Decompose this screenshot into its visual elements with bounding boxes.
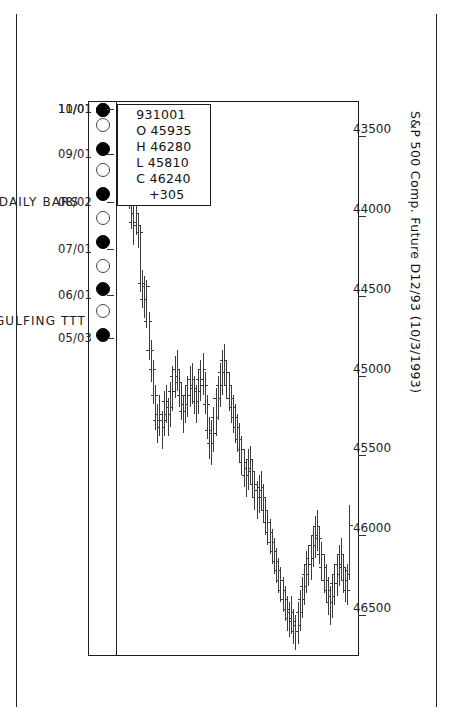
ohlc-close-tick (298, 599, 301, 600)
ohlc-close-tick (319, 567, 322, 568)
ohlc-close-tick (209, 433, 212, 434)
ohlc-close-tick (181, 404, 184, 405)
moon-phase-full-marker (96, 211, 110, 225)
ohlc-close-tick (289, 621, 292, 622)
ohlc-close-tick (159, 420, 162, 421)
ohlc-bar (276, 547, 277, 582)
ohlc-close-tick (170, 375, 173, 376)
moon-phase-new-marker (96, 234, 110, 248)
ohlc-close-tick (287, 611, 290, 612)
ohlc-bar (209, 417, 210, 459)
ohlc-close-tick (334, 563, 337, 564)
ohlc-close-tick (267, 541, 270, 542)
ohlc-close-tick (213, 397, 216, 398)
ohlc-close-tick (177, 394, 180, 395)
ohlc-open-tick (348, 589, 351, 590)
ohlc-close-tick (278, 589, 281, 590)
ohlc-bar (296, 615, 297, 650)
ohlc-close-tick (257, 487, 260, 488)
ohlc-close-tick (293, 624, 296, 625)
ohlc-bar (149, 311, 150, 359)
ohlc-open-tick (153, 369, 156, 370)
ohlc-bar (274, 538, 275, 573)
caption-engulfing-ttt: ENGULFING TTT (0, 313, 86, 327)
price-tick-label: 46500 (353, 601, 391, 615)
ohlc-bar (155, 385, 156, 430)
date-tick (107, 201, 114, 202)
ohlc-close-tick (343, 589, 346, 590)
ohlc-bar (151, 340, 152, 382)
ohlc-bar (248, 448, 249, 490)
ohlc-close-tick (211, 417, 214, 418)
ohlc-close-tick (246, 458, 249, 459)
ohlc-close-tick (339, 567, 342, 568)
ohlc-bar (216, 388, 217, 436)
ohlc-bar (179, 369, 180, 407)
ohlc-bar (224, 343, 225, 385)
ohlc-close-tick (321, 579, 324, 580)
page-rule-left (16, 14, 17, 707)
ohlc-close-tick (136, 231, 139, 232)
moon-phase-full-marker (96, 258, 110, 272)
ohlc-bar (181, 381, 182, 419)
ohlc-bar (166, 385, 167, 423)
price-tick-label: 46000 (353, 521, 391, 535)
ohlc-bar (289, 602, 290, 637)
ohlc-close-tick (149, 369, 152, 370)
ohlc-bar (213, 407, 214, 452)
ohlc-close-tick (274, 570, 277, 571)
ohlc-bar (324, 554, 325, 592)
ohlc-close-tick (147, 349, 150, 350)
ohlc-bar (144, 276, 145, 318)
ohlc-close-tick (244, 468, 247, 469)
ohlc-bar (267, 509, 268, 544)
ohlc-close-tick (207, 442, 210, 443)
ohlc-bar (315, 516, 316, 558)
ohlc-close-tick (330, 583, 333, 584)
ohlc-close-tick (157, 426, 160, 427)
ohlc-open-tick (156, 394, 159, 395)
date-tick-label: 06/01 (58, 287, 92, 301)
ohlc-bar (200, 359, 201, 401)
ohlc-close-tick (131, 212, 134, 213)
ohlc-bar (265, 496, 266, 534)
ohlc-close-tick (194, 391, 197, 392)
ohlc-bar (263, 484, 264, 522)
ohlc-bar (280, 567, 281, 602)
ohlc-bar (330, 586, 331, 624)
ohlc-close-tick (300, 586, 303, 587)
ohlc-close-tick (235, 439, 238, 440)
ohlc-close-tick (296, 611, 299, 612)
ohlc-bar (170, 381, 171, 426)
ohlc-close-tick (261, 509, 264, 510)
ohlc-close-tick (203, 404, 206, 405)
ohlc-bar (157, 404, 158, 442)
ohlc-close-tick (306, 557, 309, 558)
moon-phase-new-marker (96, 327, 110, 341)
ohlc-close-tick (265, 532, 268, 533)
ohlc-open-tick (350, 524, 353, 525)
ohlc-bar (257, 480, 258, 518)
date-tick (107, 109, 114, 110)
ohlc-close-tick (183, 394, 186, 395)
ohlc-close-tick (168, 391, 171, 392)
ohlc-close-tick (328, 595, 331, 596)
ohlc-bar (229, 372, 230, 410)
ohlc-bar (153, 359, 154, 404)
moon-phase-new-marker (96, 282, 110, 296)
ohlc-bar (298, 602, 299, 644)
date-tick (107, 294, 114, 295)
moon-phase-new-marker (96, 187, 110, 201)
ohlc-open-tick (151, 349, 154, 350)
ohlc-close-tick (226, 397, 229, 398)
price-tick-label: 43500 (353, 121, 391, 135)
plot-area[interactable]: 46500460004550045000445004400043500 9310… (116, 101, 359, 656)
ohlc-close-tick (250, 484, 253, 485)
page-rule-right (436, 14, 437, 707)
ohlc-close-tick (218, 372, 221, 373)
ohlc-close-tick (144, 321, 147, 322)
ohlc-bar (345, 567, 346, 602)
ohlc-close-tick (345, 570, 348, 571)
ohlc-close-tick (151, 394, 154, 395)
price-tick-label: 44000 (353, 201, 391, 215)
